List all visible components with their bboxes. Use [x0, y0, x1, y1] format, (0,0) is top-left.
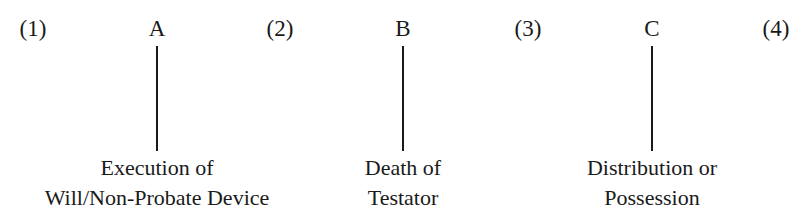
event-a-marker-line: [156, 46, 158, 151]
event-b-caption: Death of Testator: [365, 153, 441, 213]
event-a-caption: Execution of Will/Non-Probate Device: [45, 153, 270, 213]
event-b-marker-line: [402, 46, 404, 151]
event-a-caption-line-1: Execution of: [45, 153, 270, 183]
event-b-caption-line-1: Death of: [365, 153, 441, 183]
event-c-marker-line: [651, 46, 653, 151]
event-b-letter: B: [395, 14, 410, 44]
period-1-label: (1): [20, 14, 47, 44]
period-2-label: (2): [267, 14, 294, 44]
event-a-caption-line-2: Will/Non-Probate Device: [45, 183, 270, 213]
event-c-letter: C: [644, 14, 659, 44]
period-4-label: (4): [763, 14, 790, 44]
event-b-caption-line-2: Testator: [365, 183, 441, 213]
event-c-caption: Distribution or Possession: [587, 153, 717, 213]
event-c-caption-line-2: Possession: [587, 183, 717, 213]
event-c-caption-line-1: Distribution or: [587, 153, 717, 183]
timeline-diagram: (1) (2) (3) (4) A Execution of Will/Non-…: [0, 0, 802, 223]
period-3-label: (3): [515, 14, 542, 44]
event-a-letter: A: [149, 14, 166, 44]
